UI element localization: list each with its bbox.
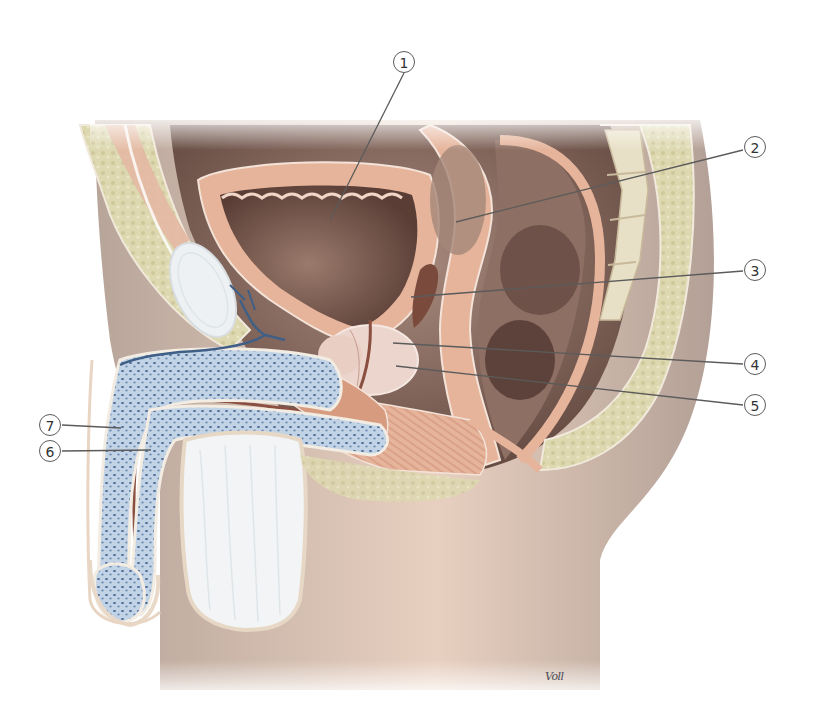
callout-7: 7 (39, 414, 61, 436)
callout-4: 4 (744, 353, 766, 375)
callout-1: 1 (393, 51, 415, 73)
artist-signature: Voll (545, 670, 564, 683)
glans (95, 564, 145, 622)
callout-2: 2 (744, 136, 766, 158)
scrotum (182, 433, 306, 631)
callout-6: 6 (39, 440, 61, 462)
callout-5: 5 (744, 394, 766, 416)
anatomy-figure: 1 2 3 4 5 7 6 Voll (0, 0, 815, 723)
peritoneal-pouch (430, 145, 486, 255)
callout-3: 3 (744, 259, 766, 281)
illustration-canvas (0, 0, 815, 723)
